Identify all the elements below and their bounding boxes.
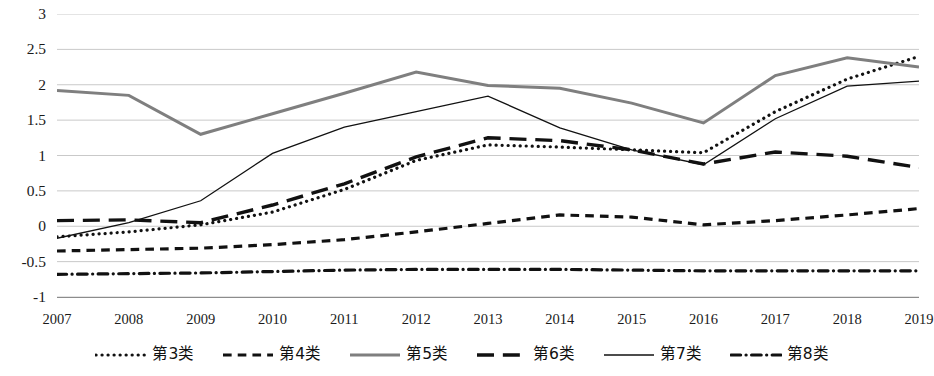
y-tick-label: 2: [38, 77, 46, 93]
x-tick-label: 2012: [402, 312, 431, 327]
series-line-6: [57, 138, 919, 223]
x-tick-label: 2015: [617, 312, 646, 327]
x-axis-line: [57, 297, 919, 298]
legend-label: 第6类: [533, 347, 575, 363]
legend-label: 第8类: [787, 347, 829, 363]
x-tick-label: 2008: [114, 312, 143, 327]
legend-item-5[interactable]: 第5类: [349, 347, 448, 363]
legend-item-6[interactable]: 第6类: [476, 347, 575, 363]
x-tick-label: 2013: [474, 312, 503, 327]
legend-label: 第7类: [660, 347, 702, 363]
x-tick-label: 2007: [43, 312, 72, 327]
y-axis-tick-labels: 32.521.510.50-0.5-1: [0, 0, 52, 311]
chart-legend: 第3类第4类第5类第6类第7类第8类: [0, 340, 924, 370]
legend-label: 第4类: [279, 347, 321, 363]
x-tick-label: 2016: [689, 312, 718, 327]
dotted-line-key: [95, 348, 147, 362]
series-line-3: [57, 56, 919, 236]
legend-item-4[interactable]: 第4类: [222, 347, 321, 363]
y-tick-label: -1: [33, 289, 46, 305]
y-tick-label: -0.5: [21, 254, 46, 270]
dash-dot-line-key: [730, 348, 782, 362]
legend-label: 第5类: [406, 347, 448, 363]
plot-area: [57, 14, 919, 297]
y-tick-label: 2.5: [27, 42, 46, 58]
x-tick-label: 2018: [833, 312, 862, 327]
x-tick-label: 2017: [761, 312, 790, 327]
y-tick-label: 0.5: [27, 183, 46, 199]
x-tick-label: 2014: [545, 312, 574, 327]
dashed-line-key: [222, 348, 274, 362]
x-tick-label: 2011: [330, 312, 358, 327]
x-tick-label: 2009: [186, 312, 215, 327]
solid-thin-line-key: [603, 348, 655, 362]
legend-item-3[interactable]: 第3类: [95, 347, 194, 363]
x-tick-label: 2019: [905, 312, 934, 327]
legend-label: 第3类: [152, 347, 194, 363]
series-line-8: [57, 269, 919, 274]
solid-gray-line-key: [349, 348, 401, 362]
y-tick-label: 3: [38, 6, 46, 22]
long-dashed-line-key: [476, 348, 528, 362]
y-tick-label: 0: [38, 219, 46, 235]
series-lines: [57, 14, 919, 297]
y-tick-label: 1.5: [27, 112, 46, 128]
y-tick-label: 1: [38, 148, 46, 164]
x-tick-label: 2010: [258, 312, 287, 327]
x-axis-tick-labels: 2007200820092010201120122013201420152016…: [57, 303, 919, 333]
legend-item-7[interactable]: 第7类: [603, 347, 702, 363]
series-line-4: [57, 209, 919, 251]
legend-item-8[interactable]: 第8类: [730, 347, 829, 363]
